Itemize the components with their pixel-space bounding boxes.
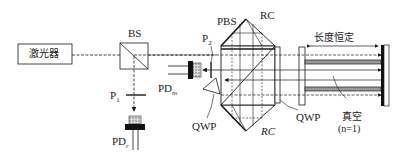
qwp-left-label: QWP [192,121,216,132]
retroreflector-bottom-label: RC [261,126,275,137]
pbs-label: PBS [217,16,237,27]
vacuum-label: 真空 [342,112,362,122]
retroreflector-top-label: RC [260,10,275,21]
cavity-spacer [305,60,381,91]
quarter-wave-plate-near-pbs [275,47,298,110]
quarter-wave-plate-left [203,78,220,118]
optical-setup-diagram [0,0,403,158]
end-mirror [381,45,389,106]
measurement-photodetector [168,61,201,79]
polarizer-1-label: P1 [110,90,120,104]
reference-detector-label: PDr [112,136,129,150]
vacuum-index-label: (n=1) [338,124,360,134]
beam-splitter-label: BS [128,28,141,39]
pbs-retroreflector-assembly [221,19,275,131]
laser-label: 激光器 [29,49,59,59]
measurement-detector-label: PDm [158,83,177,97]
quarter-wave-plate-right [299,47,305,105]
length-constant-label: 长度恒定 [314,33,354,43]
polarizer-2-label: P2 [202,33,212,47]
qwp-right-label: QWP [296,112,320,123]
